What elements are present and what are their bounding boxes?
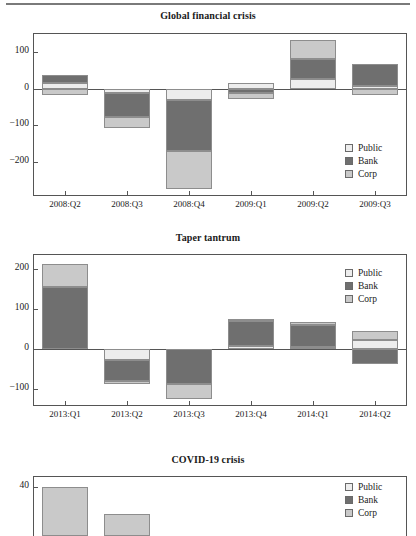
legend-item-corp: Corp	[345, 292, 382, 305]
legend-item-public: Public	[345, 141, 382, 154]
bar-segment-corp	[166, 151, 212, 189]
legend-label: Public	[358, 142, 382, 154]
x-tick-mark	[65, 191, 66, 195]
y-tick-label: 40	[0, 480, 29, 490]
x-tick-label: 2008:Q3	[97, 199, 157, 209]
bar-segment-bank	[104, 93, 150, 117]
bar-segment-corp	[42, 89, 88, 96]
bar-segment-public	[352, 340, 398, 349]
y-tick-label: 100	[0, 302, 29, 312]
bar-segment-bank	[352, 64, 398, 86]
legend-label: Corp	[358, 507, 377, 519]
bar-segment-bank	[290, 59, 336, 79]
bar-segment-bank	[42, 75, 88, 83]
legend-swatch-icon	[345, 483, 353, 491]
legend-label: Public	[358, 481, 382, 493]
legend-label: Bank	[358, 280, 378, 292]
y-tick-label: −100	[0, 382, 29, 392]
y-tick-label: 0	[0, 82, 29, 92]
bar-segment-public	[228, 346, 274, 349]
x-tick-mark	[313, 191, 314, 195]
bar-segment-public	[290, 347, 336, 349]
bar-group	[42, 34, 88, 195]
x-tick-label: 2008:Q4	[159, 199, 219, 209]
bar-group	[166, 255, 212, 405]
x-tick-mark	[189, 191, 190, 195]
bar-segment-corp	[104, 514, 150, 536]
y-tick-label: 200	[0, 262, 29, 272]
bar-segment-bank	[352, 349, 398, 364]
bar-segment-corp	[290, 322, 336, 325]
x-tick-label: 2013:Q4	[221, 409, 281, 419]
bar-segment-public	[290, 79, 336, 89]
bar-segment-corp	[166, 384, 212, 398]
bar-segment-bank	[290, 325, 336, 347]
y-tick-mark	[34, 349, 38, 350]
bar-group	[290, 34, 336, 195]
x-tick-label: 2014:Q1	[283, 409, 343, 419]
bar-segment-corp	[228, 319, 274, 321]
legend-item-bank: Bank	[345, 279, 382, 292]
zero-line	[34, 89, 406, 90]
chart-legend: PublicBankCorp	[345, 266, 382, 305]
bar-group	[104, 255, 150, 405]
legend-label: Bank	[358, 494, 378, 506]
x-tick-label: 2013:Q2	[97, 409, 157, 419]
x-tick-mark	[251, 401, 252, 405]
panel-covid-19-crisis: COVID-19 crisis 40 PublicBankCorp	[0, 450, 416, 522]
y-tick-mark	[34, 487, 38, 488]
bar-segment-corp	[228, 93, 274, 100]
legend-item-public: Public	[345, 480, 382, 493]
bar-segment-public	[166, 89, 212, 100]
y-tick-label: −200	[0, 155, 29, 165]
legend-swatch-icon	[345, 509, 353, 517]
chart-legend: PublicBankCorp	[345, 141, 382, 180]
panel-title: Taper tantrum	[0, 232, 416, 243]
panel-title: Global financial crisis	[0, 10, 416, 21]
bar-group	[290, 255, 336, 405]
bar-segment-corp	[290, 40, 336, 58]
y-tick-mark	[34, 89, 38, 90]
bar-group	[104, 477, 150, 536]
bar-segment-corp	[42, 264, 88, 287]
y-tick-label: −100	[0, 118, 29, 128]
x-tick-label: 2009:Q1	[221, 199, 281, 209]
y-tick-mark	[34, 162, 38, 163]
bar-segment-corp	[104, 381, 150, 384]
x-tick-label: 2013:Q3	[159, 409, 219, 419]
legend-swatch-icon	[345, 295, 353, 303]
x-tick-label: 2014:Q2	[345, 409, 405, 419]
legend-swatch-icon	[345, 496, 353, 504]
x-tick-mark	[375, 191, 376, 195]
bar-group	[228, 255, 274, 405]
y-tick-mark	[34, 309, 38, 310]
legend-swatch-icon	[345, 157, 353, 165]
bar-segment-bank	[42, 287, 88, 349]
x-tick-mark	[127, 191, 128, 195]
x-tick-label: 2009:Q2	[283, 199, 343, 209]
chart-legend: PublicBankCorp	[345, 480, 382, 519]
bar-segment-corp	[42, 487, 88, 536]
x-tick-mark	[65, 401, 66, 405]
y-tick-mark	[34, 269, 38, 270]
legend-swatch-icon	[345, 144, 353, 152]
bar-group	[228, 34, 274, 195]
x-tick-label: 2013:Q1	[35, 409, 95, 419]
panel-taper-tantrum: Taper tantrum 2001000−1002013:Q12013:Q22…	[0, 228, 416, 450]
bar-segment-corp	[352, 331, 398, 340]
bar-segment-bank	[228, 321, 274, 346]
panel-title: COVID-19 crisis	[0, 454, 416, 465]
bar-segment-public	[104, 349, 150, 360]
x-tick-mark	[251, 191, 252, 195]
x-tick-mark	[189, 401, 190, 405]
legend-swatch-icon	[345, 269, 353, 277]
bar-segment-corp	[352, 89, 398, 96]
bar-group	[166, 34, 212, 195]
x-tick-label: 2008:Q2	[35, 199, 95, 209]
bar-segment-bank	[104, 360, 150, 381]
legend-item-corp: Corp	[345, 167, 382, 180]
legend-item-bank: Bank	[345, 493, 382, 506]
legend-swatch-icon	[345, 170, 353, 178]
legend-swatch-icon	[345, 282, 353, 290]
legend-item-bank: Bank	[345, 154, 382, 167]
